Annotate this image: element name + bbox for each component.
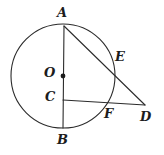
point-label-C: C [45, 90, 55, 103]
segment-CD [63, 100, 145, 105]
geometry-canvas [0, 0, 164, 155]
point-label-O: O [44, 66, 55, 79]
point-label-E: E [115, 50, 125, 63]
segment-AD [64, 26, 145, 105]
point-label-A: A [57, 6, 67, 19]
point-label-D: D [140, 110, 151, 123]
geometry-figure: A E O C F D B [0, 0, 164, 155]
point-label-F: F [104, 107, 113, 120]
center-dot-O-icon [61, 74, 66, 79]
point-label-B: B [57, 133, 68, 146]
